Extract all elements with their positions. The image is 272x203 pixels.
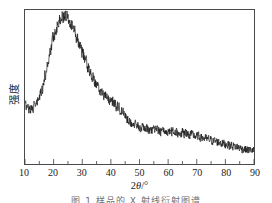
x-tick-label: 20	[38, 166, 68, 179]
plot-area	[24, 9, 255, 165]
x-axis-tick-labels: 102030405060708090	[24, 166, 255, 180]
x-tick-label: 70	[182, 166, 212, 179]
x-tick-label: 50	[125, 166, 155, 179]
x-tick-label: 30	[67, 166, 97, 179]
x-axis-title-suffix: /°	[141, 180, 148, 191]
xrd-figure: 强度 102030405060708090 2θ/° 图 1 样品的 X 射线衍…	[0, 0, 272, 203]
x-tick-label: 40	[96, 166, 126, 179]
x-axis-title: 2θ/°	[24, 179, 255, 192]
xrd-diffraction-curve	[25, 11, 254, 153]
x-tick-label: 90	[240, 166, 270, 179]
x-major-ticks	[25, 159, 254, 164]
xrd-curve-svg	[25, 10, 254, 164]
x-tick-label: 60	[153, 166, 183, 179]
x-tick-label: 80	[211, 166, 241, 179]
x-tick-label: 10	[9, 166, 39, 179]
y-axis-label: 强度	[7, 16, 21, 172]
figure-caption: 图 1 样品的 X 射线衍射图谱	[0, 195, 272, 203]
